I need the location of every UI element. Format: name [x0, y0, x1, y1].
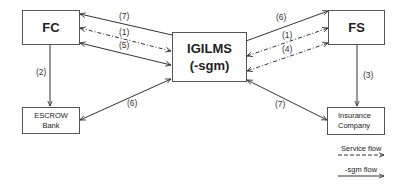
node-insurance-company: Insurance Company [327, 107, 385, 135]
flow-diagram: FC IGILMS (-sgm) FS ESCROW Bank Insuranc… [0, 0, 406, 186]
node-escrow-line1: ESCROW [34, 111, 68, 121]
edge-label-igilms-fs-6: (6) [276, 12, 286, 22]
edge-label-igilms-fs-1: (1) [282, 30, 292, 40]
node-igilms-title: IGILMS [187, 40, 232, 57]
node-igilms: IGILMS (-sgm) [172, 32, 247, 82]
node-escrow-line2: Bank [42, 121, 59, 131]
edge-label-fc-igilms-1: (1) [119, 27, 129, 37]
edge-label-igilms-insurance-7: (7) [275, 99, 285, 109]
edge-label-fs-insurance-3: (3) [363, 70, 373, 80]
edge-label-fc-igilms-7: (7) [119, 11, 129, 21]
legend-sgm-flow-label: -sgm flow [345, 165, 377, 174]
edge-label-fc-escrow-2: (2) [36, 67, 46, 77]
edge-igilms-escrow-6 [80, 79, 171, 120]
node-fs: FS [328, 10, 385, 45]
node-insurance-line1: Insurance [338, 111, 371, 121]
node-fc: FC [22, 10, 80, 45]
edge-igilms-insurance-7 [247, 80, 327, 120]
edge-label-igilms-escrow-6: (6) [127, 98, 137, 108]
legend-service-flow-label: Service flow [341, 144, 381, 153]
node-igilms-subtitle: (-sgm) [190, 57, 230, 74]
node-escrow-bank: ESCROW Bank [22, 107, 80, 134]
node-fc-label: FC [42, 20, 59, 35]
edge-label-fs-igilms-4: (4) [282, 44, 292, 54]
node-insurance-line2: Company [338, 121, 370, 131]
edge-label-fc-igilms-5: (5) [119, 40, 129, 50]
node-fs-label: FS [348, 20, 365, 35]
